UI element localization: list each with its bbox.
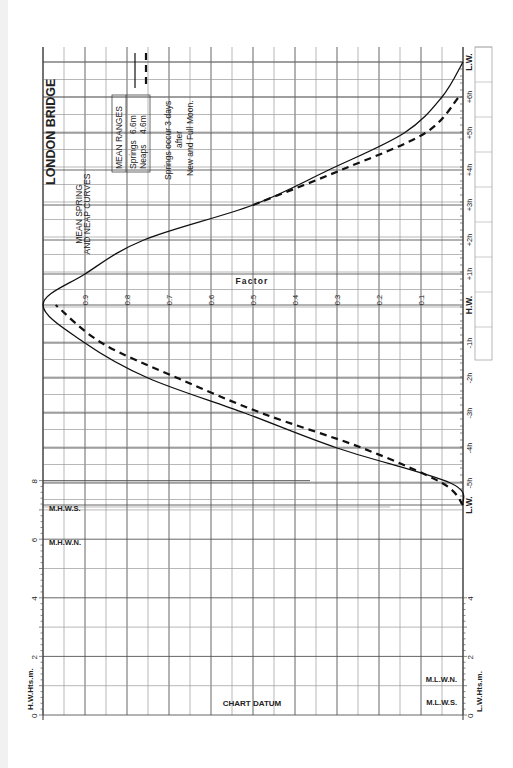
time-tick-label: -5h [465, 478, 474, 489]
mhwn-label: M.H.W.N. [49, 538, 81, 547]
time-tick-label: -4h [465, 443, 474, 454]
time-tick-label: H.W. [464, 296, 474, 314]
hw-height-tick: 2 [30, 654, 39, 659]
time-tick-label: +4h [465, 164, 474, 177]
tidal-curve-chart: L.W.-5h-4h-3h-2h-1hH.W.+1h+2h+3h+4h+5h+6… [0, 0, 513, 768]
time-tick-label: -2h [465, 373, 474, 384]
page-edge [0, 0, 8, 768]
lw-heights-axis-label: L.W.Hts.m. [475, 671, 484, 712]
hw-height-tick: 0 [30, 713, 39, 718]
hw-height-tick: 8 [30, 479, 39, 484]
mlws-label: M.L.W.S. [426, 698, 457, 707]
factor-tick-label: 0.6 [207, 295, 216, 305]
time-tick-label: L.W. [464, 53, 474, 70]
time-tick-label: +3h [465, 199, 474, 212]
lw-height-tick: 2 [466, 654, 475, 659]
note-line2: after [174, 131, 184, 148]
time-tick-label: +1h [465, 268, 474, 281]
time-tick-label: +2h [465, 234, 474, 247]
chart-title: LONDON BRIDGE [44, 79, 58, 185]
time-tick-label: L.W. [464, 496, 474, 513]
subtitle-line2: AND NEAP CURVES [82, 173, 92, 254]
time-tick-label: -1h [465, 338, 474, 349]
note-line1: Springs occur 3 days [163, 101, 173, 180]
time-tick-label: -3h [465, 408, 474, 419]
note-line3: New and Full Moon. [185, 100, 195, 176]
chart-datum-label: CHART DATUM [223, 699, 282, 708]
factor-tick-label: 0.4 [291, 295, 300, 305]
lw-height-tick: 0 [466, 713, 475, 718]
legend-springs-value: 6.6m [128, 115, 138, 134]
legend-header: MEAN RANGES [114, 106, 124, 169]
height-axis-labels: 02468024 [30, 479, 475, 718]
factor-tick-label: 0.1 [417, 295, 426, 305]
factor-tick-label: 0.5 [249, 295, 258, 305]
factor-tick-label: 0.7 [165, 295, 174, 305]
factor-labels: 0.90.80.70.60.50.40.30.20.1 [81, 295, 426, 305]
factor-heading: Factor [235, 276, 268, 286]
legend-box: MEAN RANGES Springs 6.6m Neaps 4.6m [112, 53, 150, 172]
time-axis: L.W.-5h-4h-3h-2h-1hH.W.+1h+2h+3h+4h+5h+6… [460, 47, 492, 514]
time-tick-label: +5h [465, 127, 474, 140]
legend-neaps-value: 4.6m [138, 115, 148, 134]
factor-tick-label: 0.2 [375, 295, 384, 305]
title-block: LONDON BRIDGE MEAN SPRING AND NEAP CURVE… [44, 53, 195, 254]
factor-tick-label: 0.8 [123, 295, 132, 305]
hw-heights-axis-label: H.W.Hts.m. [26, 668, 35, 710]
factor-tick-label: 0.9 [81, 295, 90, 305]
mlwn-label: M.L.W.N. [426, 675, 457, 684]
legend-springs-label: Springs [128, 140, 138, 169]
lw-height-tick: 4 [466, 596, 475, 601]
time-tick-label: +6h [465, 91, 474, 104]
legend-neaps-label: Neaps [138, 144, 148, 169]
factor-grid [43, 47, 463, 715]
hw-height-tick: 6 [30, 537, 39, 542]
hw-height-tick: 4 [30, 596, 39, 601]
factor-tick-label: 0.3 [333, 295, 342, 305]
mhws-label: M.H.W.S. [49, 504, 81, 513]
